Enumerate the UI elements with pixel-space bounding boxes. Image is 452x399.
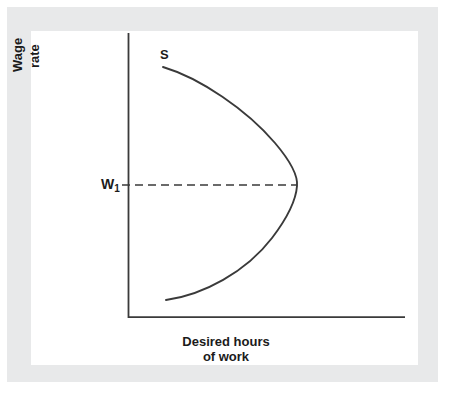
x-axis-label-line-2: of work [0,349,452,364]
figure-container: S Wage rate W1 Desired hours of work [0,0,452,399]
w1-tick-label-subscript: 1 [114,183,120,194]
w1-tick-label: W1 [101,176,120,193]
y-axis-label-line-2: rate [27,44,42,68]
w1-tick-label-base: W [101,176,114,192]
x-axis-label: Desired hours of work [0,334,452,365]
x-axis-label-line-1: Desired hours [0,334,452,349]
curve-label-s: S [160,47,169,62]
y-axis-label-line-1: Wage [10,38,25,72]
supply-curve-S [163,67,297,300]
